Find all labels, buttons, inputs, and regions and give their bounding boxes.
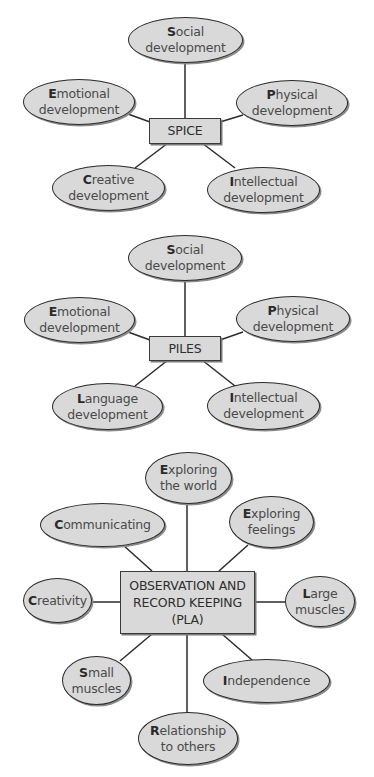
pla-communicating-node: Communicating [40,503,165,547]
pla-relationship-node: Relationship to others [138,712,238,765]
piles-center-box: PILES [149,336,221,361]
spice-physical-node: Physical development [236,80,348,126]
spice-emotional-node: Emotional development [23,79,135,125]
spice-intellectual-node: Intellectual development [207,167,320,213]
piles-language-node: Language development [52,383,163,430]
piles-emotional-node: Emotional development [24,297,135,343]
piles-intellectual-node: Intellectual development [207,382,320,430]
pla-center-box: OBSERVATION AND RECORD KEEPING (PLA) [120,571,255,634]
pla-creativity-node: Creativity [23,578,92,623]
piles-social-node: Social development [128,235,242,281]
piles-physical-node: Physical development [236,296,350,342]
pla-exploring-world-node: Exploring the world [145,452,232,504]
pla-small-muscles-node: Small muscles [62,656,131,705]
spice-social-node: Social development [128,17,243,63]
spice-creative-node: Creative development [52,165,165,211]
pla-exploring-feelings-node: Exploring feelings [229,496,314,548]
pla-large-muscles-node: Large muscles [285,576,355,627]
pla-independence-node: Independence [203,659,330,703]
spice-center-box: SPICE [149,118,221,144]
